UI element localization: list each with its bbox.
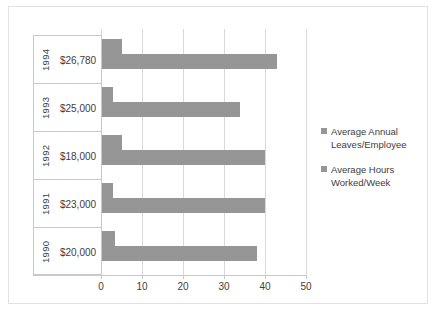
bar-average-annual-leaves bbox=[101, 183, 113, 198]
bar-average-annual-leaves bbox=[101, 39, 122, 54]
axis-tick bbox=[142, 275, 143, 279]
axis-tick-label: 10 bbox=[127, 281, 157, 292]
axis-tick-label: 20 bbox=[168, 281, 198, 292]
category-salary-label: $20,000 bbox=[54, 228, 102, 276]
axis-tick bbox=[265, 275, 266, 279]
bar-average-annual-leaves bbox=[101, 231, 115, 246]
category-year-label: 1992 bbox=[36, 132, 54, 180]
plot-area bbox=[93, 29, 306, 275]
category-label-table: 1994 $26,780 1993 $25,000 1992 $18,000 1… bbox=[33, 35, 101, 275]
axis-tick-label: 0 bbox=[86, 281, 116, 292]
category-salary-label: $23,000 bbox=[54, 180, 102, 228]
axis-tick-label: 40 bbox=[250, 281, 280, 292]
bar-average-hours-worked bbox=[101, 246, 257, 261]
axis-tick-label: 50 bbox=[291, 281, 321, 292]
legend-item-average-hours-worked: Average Hours Worked/Week bbox=[321, 163, 425, 189]
axis-tick-label: 30 bbox=[209, 281, 239, 292]
bar-average-hours-worked bbox=[101, 150, 265, 165]
chart-frame: 1994 $26,780 1993 $25,000 1992 $18,000 1… bbox=[8, 6, 428, 304]
category-row: 1994 $26,780 bbox=[34, 36, 101, 84]
category-year-label: 1994 bbox=[36, 36, 54, 84]
category-row: 1991 $23,000 bbox=[34, 180, 101, 228]
category-year-label: 1990 bbox=[36, 228, 54, 276]
category-year-label: 1991 bbox=[36, 180, 54, 228]
legend-label-line2: Leaves/Employee bbox=[331, 139, 407, 150]
category-salary-label: $18,000 bbox=[54, 132, 102, 180]
bar-average-hours-worked bbox=[101, 54, 277, 69]
legend-label: Average Annual Leaves/Employee bbox=[331, 125, 407, 151]
value-axis-line bbox=[101, 35, 102, 275]
category-row: 1990 $20,000 bbox=[34, 228, 101, 276]
category-year-label: 1993 bbox=[36, 84, 54, 132]
category-row: 1993 $25,000 bbox=[34, 84, 101, 132]
chart-legend: Average Annual Leaves/Employee Average H… bbox=[321, 125, 425, 201]
category-salary-label: $26,780 bbox=[54, 36, 102, 84]
axis-tick bbox=[183, 275, 184, 279]
axis-tick bbox=[306, 275, 307, 279]
legend-label: Average Hours Worked/Week bbox=[331, 163, 394, 189]
legend-label-line1: Average Annual bbox=[331, 126, 398, 137]
axis-tick bbox=[224, 275, 225, 279]
legend-item-average-annual-leaves: Average Annual Leaves/Employee bbox=[321, 125, 425, 151]
gridline bbox=[306, 29, 307, 275]
legend-label-line1: Average Hours bbox=[331, 164, 394, 175]
legend-label-line2: Worked/Week bbox=[331, 177, 390, 188]
bar-average-hours-worked bbox=[101, 198, 265, 213]
category-row: 1992 $18,000 bbox=[34, 132, 101, 180]
bar-average-annual-leaves bbox=[101, 87, 113, 102]
legend-swatch-icon bbox=[321, 128, 327, 134]
legend-swatch-icon bbox=[321, 166, 327, 172]
category-salary-label: $25,000 bbox=[54, 84, 102, 132]
bar-average-hours-worked bbox=[101, 102, 240, 117]
bar-average-annual-leaves bbox=[101, 135, 122, 150]
